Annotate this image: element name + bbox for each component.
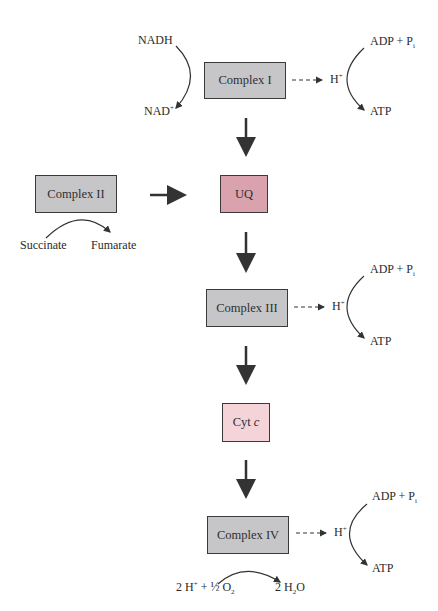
adp-pi-label-1: ADP + Pi — [370, 34, 415, 50]
atp-synthesis-curve-4 — [350, 504, 368, 565]
complex-iii-box: Complex III — [206, 289, 288, 327]
atp-label-1: ATP — [370, 104, 391, 119]
atp-synthesis-curve-3 — [347, 276, 364, 338]
proton-label-1: H+ — [330, 72, 343, 87]
adp-pi-label-4: ADP + Pi — [372, 489, 417, 505]
cyt-c-label: Cyt c — [233, 415, 260, 430]
succinate-label: Succinate — [20, 238, 67, 253]
atp-label-3: ATP — [370, 334, 391, 349]
atp-synthesis-curve-1 — [347, 48, 364, 110]
fumarate-label: Fumarate — [91, 238, 136, 253]
proton-label-4: H+ — [334, 525, 347, 540]
ubiquinone-box: UQ — [220, 175, 268, 213]
atp-label-4: ATP — [372, 561, 393, 576]
nadh-to-nad-curve — [176, 46, 191, 108]
complex-i-box: Complex I — [204, 62, 286, 99]
complex-ii-label: Complex II — [47, 187, 104, 202]
adp-pi-label-3: ADP + Pi — [370, 262, 415, 278]
proton-label-3: H+ — [332, 299, 345, 314]
water-product-label: 2 H2O — [275, 580, 305, 596]
oxygen-reactants-label: 2 H+ + ½ O2 — [176, 580, 235, 596]
nadh-label: NADH — [138, 33, 173, 48]
complex-ii-box: Complex II — [35, 175, 117, 213]
nad-plus-label: NAD+ — [144, 104, 174, 119]
complex-iv-box: Complex IV — [207, 516, 289, 554]
complex-iv-label: Complex IV — [217, 528, 279, 543]
complex-iii-label: Complex III — [216, 301, 277, 316]
complex-i-label: Complex I — [218, 73, 271, 88]
succinate-to-fumarate-curve — [46, 220, 110, 238]
uq-label: UQ — [235, 187, 253, 202]
cytochrome-c-box: Cyt c — [222, 403, 270, 442]
